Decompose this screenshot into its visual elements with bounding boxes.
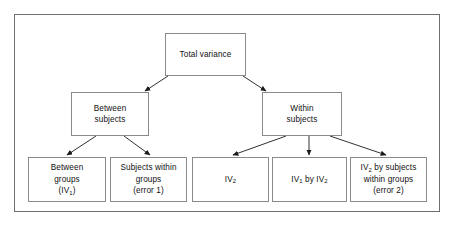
node-between-subjects[interactable]: Between subjects: [71, 92, 149, 136]
node-subjects-within-groups[interactable]: Subjects within groups (error 1): [110, 157, 187, 202]
node-iv1-by-iv2-label: IV1 by IV2: [289, 174, 329, 186]
edge-between-to-leaf1: [67, 136, 96, 155]
node-iv2-by-subjects-within-groups-label: IV2 by subjectswithin groups(error 2): [359, 162, 419, 197]
node-between-subjects-label: Between subjects: [92, 103, 129, 126]
node-subjects-within-groups-label: Subjects within groups (error 1): [118, 162, 178, 197]
node-iv2-by-subjects-within-groups[interactable]: IV2 by subjectswithin groups(error 2): [350, 157, 427, 202]
node-within-subjects[interactable]: Within subjects: [262, 92, 342, 136]
node-iv2-label: IV2: [223, 174, 238, 186]
edge-total-to-within: [243, 76, 266, 91]
node-iv2[interactable]: IV2: [192, 157, 269, 202]
edge-within-to-leaf3: [233, 136, 286, 155]
node-within-subjects-label: Within subjects: [285, 103, 320, 126]
node-iv1-by-iv2[interactable]: IV1 by IV2: [272, 157, 347, 202]
node-total-variance[interactable]: Total variance: [165, 33, 246, 76]
node-between-groups-label: Betweengroups(IV1): [49, 162, 86, 197]
node-between-groups[interactable]: Betweengroups(IV1): [28, 157, 106, 202]
edge-between-to-leaf2: [124, 136, 150, 155]
edge-total-to-between: [145, 76, 168, 91]
diagram-canvas: Total variance Between subjects Within s…: [0, 0, 453, 230]
node-total-variance-label: Total variance: [178, 49, 234, 61]
edge-within-to-leaf5: [330, 136, 386, 155]
